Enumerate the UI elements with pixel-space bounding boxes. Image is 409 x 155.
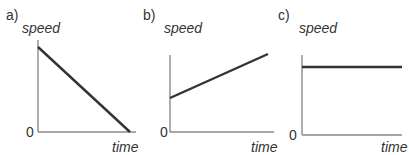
speed-line-decreasing xyxy=(38,47,130,132)
speed-time-graphs: a) speed 0 time b) speed 0 time c) speed… xyxy=(0,0,409,155)
x-axis-label: time xyxy=(251,139,278,155)
x-axis-label: time xyxy=(381,139,408,155)
y-axis-label: speed xyxy=(22,20,61,36)
panel-c: c) speed 0 time xyxy=(278,7,408,155)
panel-a: a) speed 0 time xyxy=(6,7,139,155)
x-axis-label: time xyxy=(112,139,139,155)
panel-label: a) xyxy=(6,7,18,23)
origin-tick-label: 0 xyxy=(289,127,297,143)
panel-label: b) xyxy=(143,7,155,23)
y-axis-label: speed xyxy=(164,20,203,36)
origin-tick-label: 0 xyxy=(26,124,34,140)
panel-b: b) speed 0 time xyxy=(143,7,278,155)
y-axis-label: speed xyxy=(299,20,338,36)
speed-line-increasing xyxy=(170,54,268,98)
origin-tick-label: 0 xyxy=(160,124,168,140)
panel-label: c) xyxy=(278,7,290,23)
